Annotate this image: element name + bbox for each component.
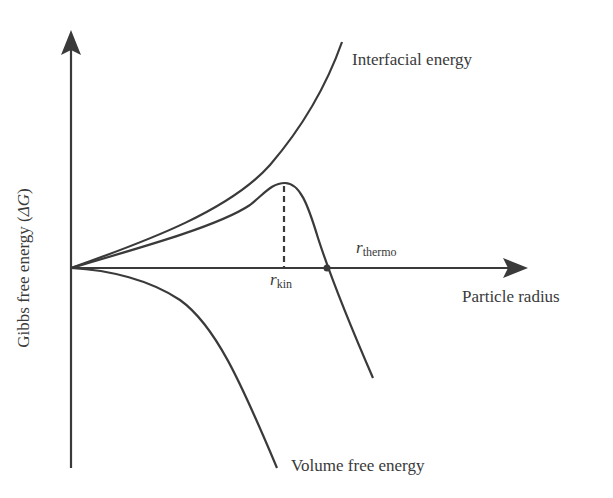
diagram-canvas [0,0,613,498]
r-thermo-point [324,265,331,272]
volume-free-energy-label: Volume free energy [291,456,424,476]
r-kin-label: rkin [270,270,292,292]
r-thermo-label: rthermo [356,238,397,260]
interfacial-energy-curve [71,42,342,268]
volume-free-energy-curve [71,268,277,468]
interfacial-energy-label: Interfacial energy [352,50,472,70]
x-axis-label: Particle radius [462,287,560,307]
y-axis-label: Gibbs free energy (ΔG) [14,188,34,347]
